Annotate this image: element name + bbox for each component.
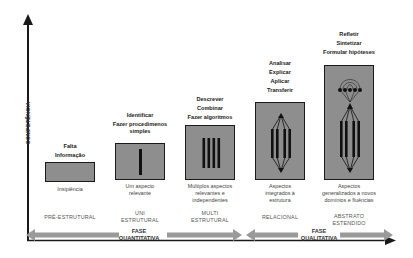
top-text-line: Explicar xyxy=(245,68,315,77)
bottom-text-line: Aspectos xyxy=(309,183,389,190)
level-3-bottom-text: Múltiplos aspectos relevantes e independ… xyxy=(172,183,248,204)
bottom-text-line: integrados à xyxy=(245,190,315,197)
level-5-box xyxy=(324,65,374,180)
level-1-label: PRÉ-ESTRUTURAL xyxy=(30,214,110,221)
level-2-top-text: Identificar Fazer procedimenos simples xyxy=(102,111,178,136)
top-text-line: Fazer algoritmos xyxy=(172,113,248,122)
top-text-line: Formular hipóteses xyxy=(309,48,389,57)
phase-line: QUANTITATIVA xyxy=(114,235,164,242)
level-4-bottom-text: Aspectos integrados à estrutura xyxy=(245,183,315,204)
level-2-bottom-text: Um aspecto relevante xyxy=(105,183,175,197)
level-4-top-text: Analisar Explicar Aplicar Transferir xyxy=(245,59,315,95)
single-bar-icon xyxy=(116,144,166,181)
top-text-line: Transferir xyxy=(245,86,315,95)
phase-quantitative-label: FASE QUANTITATIVA xyxy=(114,228,164,242)
level-2-box xyxy=(115,143,165,180)
label-line: UNI xyxy=(110,210,170,217)
bottom-text-line: generalizados a novos xyxy=(309,190,389,197)
level-1-bottom-text: Insipiência xyxy=(35,186,105,193)
label-line: ESTENDIDO xyxy=(319,220,379,227)
top-text-line: Falta xyxy=(38,142,102,151)
label-line: MULTI xyxy=(180,210,240,217)
phase-line: FASE xyxy=(294,228,344,235)
phase-line: FASE xyxy=(114,228,164,235)
bottom-text-line: Aspectos xyxy=(245,183,315,190)
integrated-bars-icon xyxy=(256,103,306,181)
quantitative-left-arrow-icon xyxy=(26,229,120,241)
label-line: ABSTRATO xyxy=(319,213,379,220)
top-text-line: Aplicar xyxy=(245,77,315,86)
level-4-box xyxy=(255,102,305,180)
level-4-label: RELACIONAL xyxy=(250,214,310,221)
y-axis-label: COMPETÊNCIA xyxy=(25,99,31,147)
level-2-label: UNI ESTRUTURAL xyxy=(110,210,170,224)
bottom-text-line: relevantes e xyxy=(172,190,248,197)
top-text-line: Identificar xyxy=(102,111,178,120)
level-3-label: MULTI ESTRUTURAL xyxy=(180,210,240,224)
level-5-label: ABSTRATO ESTENDIDO xyxy=(319,213,379,227)
level-5-top-text: Refletir Sintetizar Formular hipóteses xyxy=(309,30,389,57)
bottom-text-line: independentes xyxy=(172,197,248,204)
top-text-line: Refletir xyxy=(309,30,389,39)
top-text-line: Analisar xyxy=(245,59,315,68)
level-3-top-text: Descrever Combinar Fazer algoritmos xyxy=(172,95,248,122)
quantitative-right-arrow-icon xyxy=(167,229,242,241)
top-text-line: Combinar xyxy=(172,104,248,113)
bottom-text-line: domínios e fluências xyxy=(309,197,389,204)
phase-qualitative-label: FASE QUALITATIVA xyxy=(294,228,344,242)
bottom-text-line: Insipiência xyxy=(35,186,105,193)
top-text-line: Informação xyxy=(38,151,102,160)
level-1-box xyxy=(45,162,95,182)
bottom-text-line: Múltiplos aspectos xyxy=(172,183,248,190)
label-line: ESTRUTURAL xyxy=(110,217,170,224)
qualitative-right-arrow-icon xyxy=(340,229,393,241)
qualitative-left-arrow-icon xyxy=(246,229,298,241)
bottom-text-line: Um aspecto xyxy=(105,183,175,190)
phase-line: QUALITATIVA xyxy=(294,235,344,242)
top-text-line: Descrever xyxy=(172,95,248,104)
four-bars-icon xyxy=(186,126,236,181)
level-5-bottom-text: Aspectos generalizados a novos domínios … xyxy=(309,183,389,204)
bottom-text-line: relevante xyxy=(105,190,175,197)
label-line: ESTRUTURAL xyxy=(180,217,240,224)
level-3-box xyxy=(185,125,235,180)
extended-structure-icon xyxy=(325,66,375,181)
top-text-line: Sintetizar xyxy=(309,39,389,48)
bottom-text-line: estrutura xyxy=(245,197,315,204)
level-1-top-text: Falta Informação xyxy=(38,142,102,160)
